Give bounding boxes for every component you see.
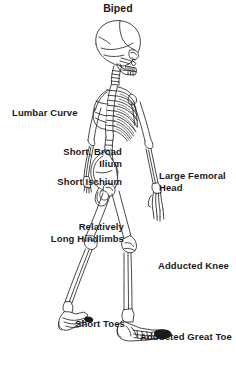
skull-group — [96, 21, 141, 76]
figure-title: Biped — [0, 3, 236, 15]
label-adducted-knee: Adducted Knee — [158, 260, 229, 272]
label-short-ischium: Short Ischium — [4, 176, 122, 188]
near-arm — [134, 102, 164, 221]
label-short-toes: Short Toes — [75, 318, 125, 330]
label-lumbar-curve: Lumbar Curve — [12, 107, 78, 119]
rear-leg — [58, 193, 110, 330]
label-adducted-great-toe: Adducted Great Toe — [140, 331, 232, 343]
label-relatively-long-hindlimbs: Relatively Long Hindlimbs — [4, 221, 124, 244]
label-short-broad-ilium: Short, Broad Ilium — [4, 146, 122, 169]
biped-skeleton-figure: Biped Lumbar Curve Short, Broad Ilium Sh… — [0, 0, 236, 365]
label-large-femoral-head: Large Femoral Head — [159, 170, 226, 193]
